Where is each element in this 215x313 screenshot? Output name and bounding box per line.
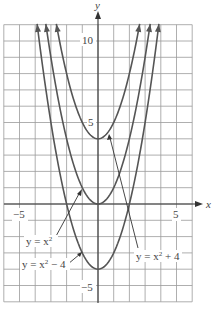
- y-tick-5: 5: [88, 116, 94, 128]
- x-tick-neg5: −5: [13, 208, 25, 220]
- x-axis-label: x: [205, 198, 211, 210]
- y-tick-neg5: −5: [81, 281, 93, 293]
- annotation-y-x2-minus-4: y = x2 − 4: [22, 258, 66, 270]
- leader-x2: [55, 192, 80, 238]
- curve-end-arrow-icon: [135, 24, 141, 32]
- y-axis-label: y: [94, 0, 100, 11]
- x-axis-arrow-icon: [195, 201, 203, 207]
- curve-end-arrow-icon: [146, 24, 152, 32]
- leader-x2p4: [110, 138, 138, 248]
- leader-x2p4-arrow-icon: [107, 134, 112, 140]
- curve-end-arrow-icon: [35, 24, 41, 32]
- annotation-y-x2-plus-4: y = x2 + 4: [136, 250, 180, 262]
- x-tick-5: 5: [173, 208, 179, 220]
- curve-end-arrow-icon: [44, 24, 50, 32]
- curve-end-arrow-icon: [155, 24, 161, 32]
- leader-x2-arrow-icon: [77, 189, 82, 196]
- y-axis-arrow-icon: [95, 11, 101, 19]
- parabola-chart: x y 10 5 −5 −5 5 y = x2 y = x2 − 4 y = x…: [0, 0, 215, 313]
- y-tick-10: 10: [82, 34, 94, 46]
- curve-end-arrow-icon: [55, 24, 61, 32]
- annotation-y-x2: y = x2: [26, 235, 53, 247]
